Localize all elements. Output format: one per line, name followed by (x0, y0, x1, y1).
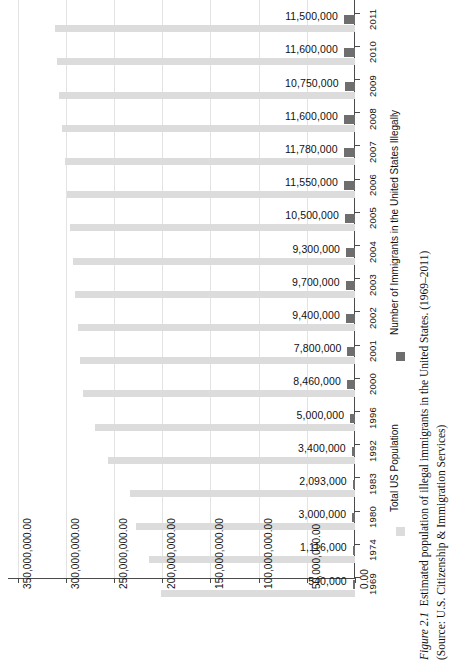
bar-row: 3,400,000 (8, 434, 355, 467)
bar-illegal-immigrants (344, 148, 355, 157)
bar-value-label: 3,000,000 (298, 508, 346, 520)
bar-value-label: 9,700,000 (292, 276, 340, 288)
category-axis-tickmark (355, 411, 360, 412)
bar-total-population (161, 590, 355, 597)
bar-illegal-immigrants (345, 214, 355, 223)
bar-chart-plot-area: 11,500,00011,600,00010,750,00011,600,000… (0, 0, 372, 600)
category-label-2005: 2005 (367, 207, 378, 229)
value-axis-tick-label: 0.00 (359, 569, 370, 589)
bar-total-population (95, 424, 355, 431)
bar-illegal-immigrants (353, 546, 355, 555)
bar-illegal-immigrants (346, 281, 355, 290)
bar-row: 3,000,000 (8, 500, 355, 533)
category-label-2000: 2000 (367, 373, 378, 395)
category-label-1980: 1980 (367, 506, 378, 528)
bar-value-label: 11,600,000 (285, 110, 338, 122)
legend-label-immigrants: Number of Immigrants in the United State… (389, 110, 400, 335)
category-axis-tickmark (355, 112, 360, 113)
caption-source-line: (Source: U.S. Citizenship & Immigration … (435, 425, 447, 660)
value-axis-tickmark (355, 578, 356, 583)
caption-main-line: Figure 2.1 Estimated population of illeg… (418, 251, 430, 660)
bar-row: 5,000,000 (8, 400, 355, 433)
legend-swatch-total-population (396, 527, 405, 536)
category-axis-tickmark (355, 378, 360, 379)
bar-value-label: 9,400,000 (292, 309, 340, 321)
category-label-2004: 2004 (367, 241, 378, 263)
bar-illegal-immigrants (350, 414, 355, 423)
bar-illegal-immigrants (346, 314, 355, 323)
value-axis-tick-label: 50,000,000.00 (311, 524, 322, 589)
bar-total-population (149, 556, 355, 563)
value-axis-tick-label: 300,000,000.00 (70, 518, 81, 589)
bar-illegal-immigrants (353, 580, 355, 589)
category-label-1996: 1996 (367, 407, 378, 429)
bar-row: 540,000 (8, 566, 355, 599)
bar-value-label: 10,750,000 (285, 77, 339, 89)
category-axis-tickmark (355, 13, 360, 14)
category-label-1974: 1974 (367, 539, 378, 561)
bar-row: 8,460,000 (8, 367, 355, 400)
bar-row: 10,500,000 (8, 201, 355, 234)
bar-value-label: 8,460,000 (293, 375, 341, 387)
category-axis-tickmark (355, 345, 360, 346)
bar-total-population (70, 224, 355, 231)
bar-total-population (57, 58, 355, 65)
bar-value-label: 11,600,000 (285, 43, 338, 55)
bar-total-population (73, 258, 355, 265)
legend-label-total-population: Total US Population (389, 424, 400, 512)
caption-figure-text: Estimated population of illegal immigran… (418, 251, 430, 606)
category-label-1983: 1983 (367, 473, 378, 495)
category-label-2008: 2008 (367, 108, 378, 130)
bar-value-label: 11,780,000 (285, 143, 338, 155)
category-axis-tickmark (355, 212, 360, 213)
bar-row: 11,600,000 (8, 102, 355, 135)
bar-illegal-immigrants (347, 380, 355, 389)
category-label-1992: 1992 (367, 440, 378, 462)
chart-legend: Number of Immigrants in the United State… (389, 0, 411, 600)
value-axis-tick-label: 350,000,000.00 (22, 518, 33, 589)
figure-page: 11,500,00011,600,00010,750,00011,600,000… (0, 0, 453, 669)
category-label-2007: 2007 (367, 141, 378, 163)
bar-value-label: 1,116,000 (300, 541, 347, 553)
bar-total-population (75, 291, 355, 298)
category-axis-tickmark (355, 145, 360, 146)
category-axis-tickmark (355, 79, 360, 80)
category-label-2011: 2011 (367, 9, 378, 30)
value-axis-tick-label: 200,000,000.00 (166, 518, 177, 589)
category-label-2001: 2001 (367, 340, 378, 362)
bar-total-population (78, 324, 355, 331)
caption-figure-number: Figure 2.1 (418, 612, 430, 660)
category-axis-tickmark (355, 179, 360, 180)
value-axis-tick-label: 100,000,000.00 (263, 518, 274, 589)
category-label-2002: 2002 (367, 307, 378, 329)
bar-illegal-immigrants (344, 48, 355, 57)
bar-illegal-immigrants (344, 15, 355, 24)
bar-value-label: 11,550,000 (285, 176, 338, 188)
bar-value-label: 7,800,000 (294, 342, 342, 354)
bar-row: 11,550,000 (8, 168, 355, 201)
bar-value-label: 11,500,000 (285, 10, 338, 22)
category-axis-tickmark (355, 46, 360, 47)
category-axis-tickmark (355, 444, 360, 445)
bar-total-population (108, 457, 355, 464)
bar-value-label: 10,500,000 (285, 209, 339, 221)
bar-value-label: 5,000,000 (297, 409, 345, 421)
bar-row: 9,300,000 (8, 234, 355, 267)
legend-swatch-immigrants (396, 352, 405, 361)
bar-total-population (83, 390, 355, 397)
bar-value-label: 3,400,000 (298, 442, 346, 454)
bar-row: 9,700,000 (8, 268, 355, 301)
bar-total-population (55, 25, 355, 32)
category-axis-tickmark (355, 511, 360, 512)
bar-illegal-immigrants (352, 447, 355, 456)
bar-row: 7,800,000 (8, 334, 355, 367)
bar-illegal-immigrants (344, 115, 355, 124)
category-axis-tickmark (355, 477, 360, 478)
category-axis-tickmark (355, 278, 360, 279)
bar-illegal-immigrants (345, 82, 355, 91)
bar-row: 9,400,000 (8, 301, 355, 334)
category-axis-tickmark (355, 245, 360, 246)
bar-row: 1,116,000 (8, 533, 355, 566)
bar-total-population (80, 357, 355, 364)
value-axis-tick-label: 150,000,000.00 (214, 518, 225, 589)
